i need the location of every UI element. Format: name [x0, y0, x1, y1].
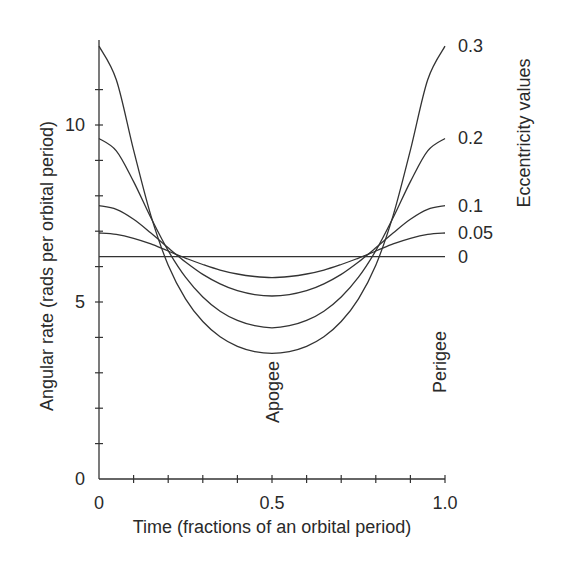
- legend-eccentricity-labels: 0.30.20.10.050: [458, 36, 493, 267]
- y-tick-labels: 0510: [65, 115, 85, 489]
- x-tick-label: 1.0: [432, 493, 457, 513]
- series-label-e-0: 0: [458, 247, 468, 267]
- x-tick-label: 0.5: [259, 493, 284, 513]
- x-tick-label: 0: [94, 493, 104, 513]
- apogee-annotation: Apogee: [263, 361, 283, 423]
- series-label-e-0.05: 0.05: [458, 223, 493, 243]
- y-axis-title: Angular rate (rads per orbital period): [37, 121, 57, 411]
- series-line-e-0.05: [99, 233, 445, 278]
- legend-title: Eccentricity values: [514, 58, 534, 207]
- series-line-e-0.1: [99, 206, 445, 296]
- series-line-e-0.3: [99, 46, 445, 353]
- y-tick-label: 5: [75, 292, 85, 312]
- y-tick-label: 0: [75, 469, 85, 489]
- curves: [99, 46, 445, 353]
- series-label-e-0.2: 0.2: [458, 128, 483, 148]
- series-label-e-0.3: 0.3: [458, 36, 483, 56]
- x-tick-labels: 00.51.0: [94, 493, 458, 513]
- series-label-e-0.1: 0.1: [458, 196, 483, 216]
- perigee-annotation: Perigee: [430, 331, 450, 393]
- x-axis-title: Time (fractions of an orbital period): [133, 517, 411, 537]
- y-tick-label: 10: [65, 115, 85, 135]
- chart: 0510 00.51.0 0.30.20.10.050 Angular rate…: [0, 0, 561, 566]
